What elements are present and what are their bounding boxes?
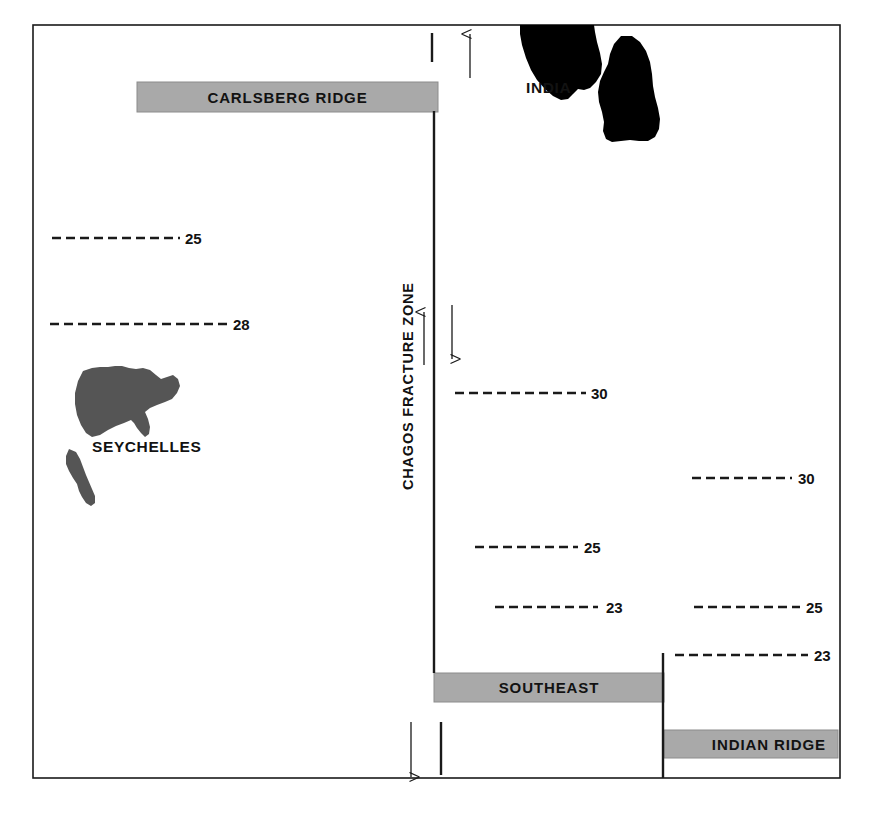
carlsberg-ridge-label: CARLSBERG RIDGE — [207, 89, 367, 106]
indian-ocean-tectonic-diagram: CARLSBERG RIDGE SOUTHEAST INDIAN RIDGE C… — [0, 0, 871, 820]
indian-ridge: INDIAN RIDGE — [664, 730, 838, 758]
carlsberg-ridge: CARLSBERG RIDGE — [137, 82, 438, 112]
southeast-ridge-label: SOUTHEAST — [499, 679, 600, 696]
anomaly-value-label: 25 — [185, 230, 202, 247]
anomaly-value-label: 25 — [584, 539, 601, 556]
anomaly-value-label: 30 — [798, 470, 815, 487]
india-label: INDIA — [526, 79, 571, 96]
anomaly-value-label: 25 — [806, 599, 823, 616]
anomaly-value-label: 28 — [233, 316, 250, 333]
southeast-ridge: SOUTHEAST — [434, 673, 664, 702]
seychelles-label: SEYCHELLES — [92, 438, 201, 455]
anomaly-value-label: 23 — [606, 599, 623, 616]
chagos-fracture-zone-label: CHAGOS FRACTURE ZONE — [400, 282, 416, 490]
anomaly-value-label: 23 — [814, 647, 831, 664]
indian-ridge-label: INDIAN RIDGE — [712, 736, 826, 753]
anomaly-value-label: 30 — [591, 385, 608, 402]
